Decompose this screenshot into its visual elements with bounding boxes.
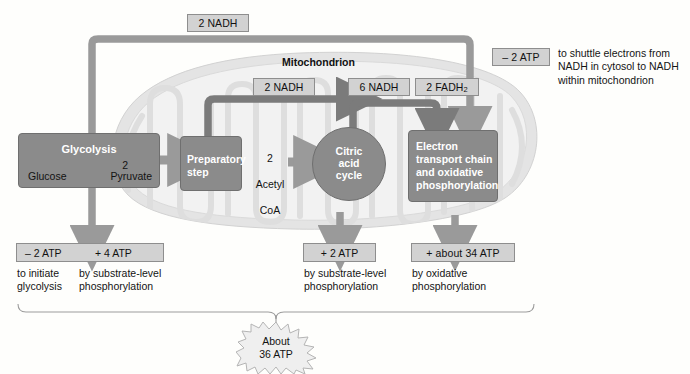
total-atp-starburst: About 36 ATP	[236, 322, 316, 374]
cellular-respiration-diagram: Glycolysis Glucose 2 Pyruvate Preparator…	[0, 0, 690, 374]
total-bracket	[0, 0, 690, 374]
total-atp-text: About 36 ATP	[236, 335, 316, 360]
